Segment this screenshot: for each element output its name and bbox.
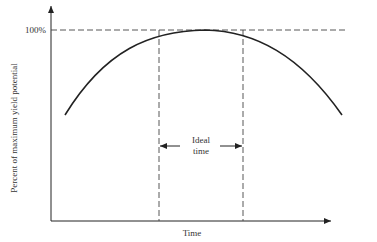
x-axis-label: Time <box>183 228 202 238</box>
ideal-label-line1: Ideal <box>192 135 210 145</box>
y-tick-100: 100% <box>25 25 47 35</box>
y-axis-label: Percent of maximum yield potential <box>9 63 19 193</box>
yield-chart: 100% Ideal time Time Percent of maximum … <box>0 0 377 242</box>
yield-curve <box>65 30 342 115</box>
ideal-label-line2: time <box>193 146 209 156</box>
